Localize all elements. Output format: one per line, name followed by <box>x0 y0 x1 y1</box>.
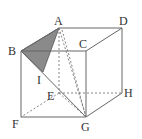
label-h: H <box>124 86 133 100</box>
label-c: C <box>79 37 87 51</box>
label-b: B <box>8 44 16 58</box>
label-a: A <box>54 14 63 28</box>
label-e: E <box>47 89 54 103</box>
label-f: F <box>12 117 19 131</box>
shaded-triangle-abi <box>21 28 59 72</box>
label-g: G <box>81 120 90 134</box>
label-i: I <box>37 73 41 87</box>
cube-diagram: A B C D E F G H I <box>0 0 142 139</box>
label-d: D <box>119 14 128 28</box>
